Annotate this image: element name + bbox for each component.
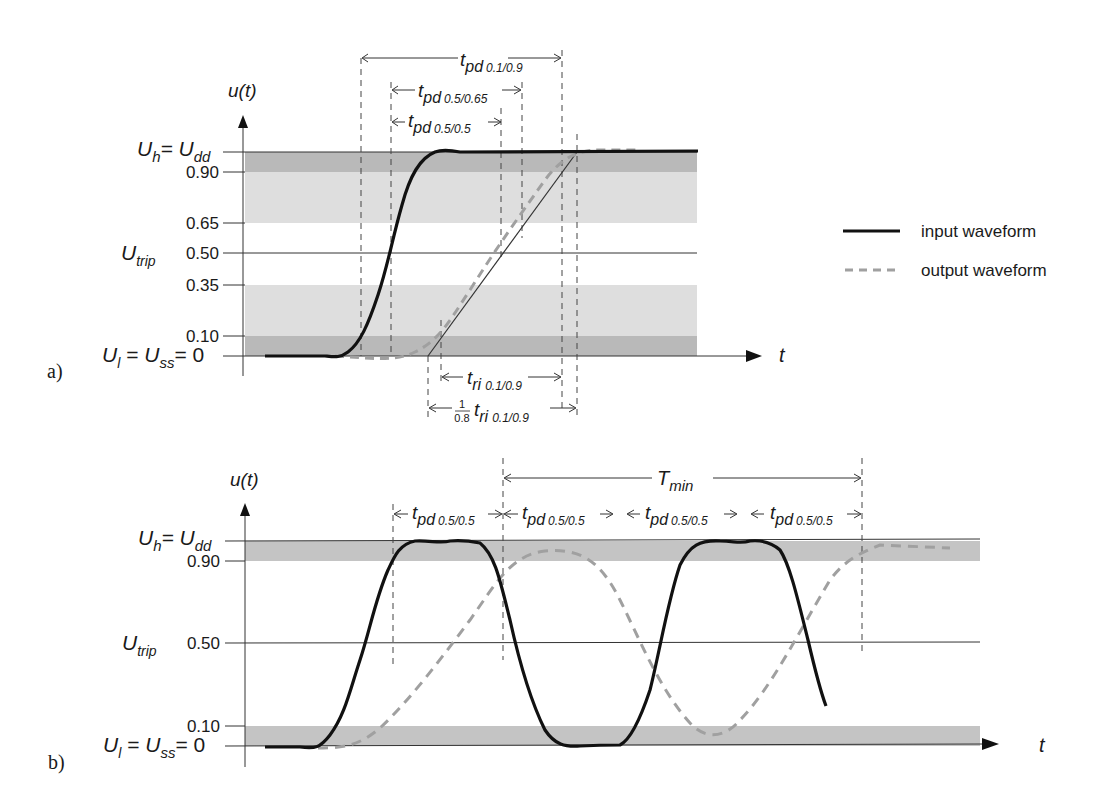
panel-b: Tmin tpd0.5/0.5 tpd0.5/0.5 tpd0.5/0.5 tp… (48, 458, 1046, 774)
legend-input-label: input waveform (921, 222, 1036, 241)
y-axis-label-a: u(t) (228, 80, 257, 101)
timing-diagram: tpd0.1/0.9 tpd0.5/0.65 tpd0.5/0.5 tri0.1… (0, 0, 1113, 802)
panel-a-tag: a) (47, 360, 63, 383)
x-axis-label-b: t (1039, 734, 1046, 756)
utrip-label-a: Utrip (121, 241, 156, 269)
panel-b-tag: b) (48, 751, 65, 774)
tpd-05-065-label: tpd0.5/0.65 (418, 80, 488, 106)
tpd-label-2: tpd0.5/0.5 (522, 502, 585, 528)
band-high-dark (245, 152, 697, 172)
tpd-label-4: tpd0.5/0.5 (770, 502, 833, 528)
tick-090-a: 0.90 (186, 163, 219, 182)
tri-scaled-label: 1 0.8 tri0.1/0.9 (454, 398, 529, 425)
trip-line-b (225, 642, 980, 643)
svg-text:tri0.1/0.9: tri0.1/0.9 (474, 399, 529, 425)
tick-090-b: 0.90 (187, 552, 220, 571)
tick-035-a: 0.35 (186, 276, 219, 295)
ul-label-b: Ul = Uss= 0 (103, 733, 205, 761)
output-waveform-b (318, 545, 950, 748)
svg-text:0.8: 0.8 (454, 412, 469, 424)
uh-label-a: Uh= Udd (137, 137, 211, 165)
tpd-05-05-label: tpd0.5/0.5 (408, 110, 471, 136)
tmin-label: Tmin (657, 467, 693, 494)
uh-label-b: Uh= Udd (138, 526, 212, 554)
x-axis-arrow-icon (982, 738, 999, 750)
svg-text:1: 1 (459, 398, 465, 410)
x-axis-arrow-icon (746, 350, 762, 362)
utrip-label-b: Utrip (122, 631, 157, 659)
tpd-label-3: tpd0.5/0.5 (645, 502, 708, 528)
y-axis-arrow-icon (238, 115, 248, 128)
legend-output-label: output waveform (921, 261, 1047, 280)
ul-label-a: Ul = Uss= 0 (102, 343, 204, 371)
tpd-01-09-label: tpd0.1/0.9 (460, 49, 523, 75)
tri-label: tri0.1/0.9 (467, 367, 522, 393)
band-high-light (245, 172, 697, 223)
y-axis-label-b: u(t) (230, 469, 259, 490)
band-low-light (245, 285, 697, 336)
tick-050-a: 0.50 (186, 244, 219, 263)
panel-a: tpd0.1/0.9 tpd0.5/0.65 tpd0.5/0.5 tri0.1… (47, 49, 786, 425)
tick-065-a: 0.65 (186, 214, 219, 233)
tpd-label-1: tpd0.5/0.5 (412, 502, 475, 528)
tick-050-b: 0.50 (187, 634, 220, 653)
band-low-dark (245, 336, 697, 356)
x-axis-label-a: t (779, 344, 786, 366)
legend: input waveform output waveform (843, 222, 1047, 280)
band-high-b (245, 541, 980, 561)
y-axis-arrow-icon (240, 503, 250, 516)
